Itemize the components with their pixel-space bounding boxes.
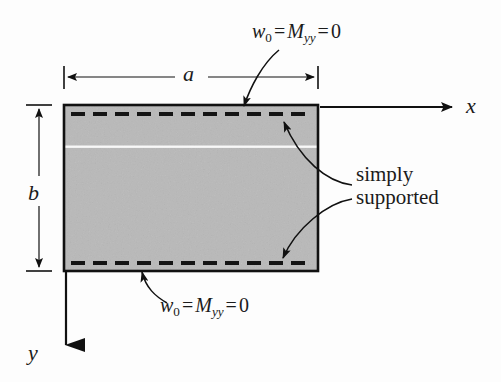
boundary-condition-top-label: w0=Myy=0 (252, 20, 341, 46)
annotation-line-2: supported (356, 186, 439, 209)
plate-rectangle (64, 105, 318, 271)
scan-streak-artifact (65, 146, 317, 148)
bc-bottom-equals-1: = (180, 294, 195, 316)
bc-top-value: 0 (331, 20, 341, 42)
bc-bottom-w-symbol: w (160, 294, 173, 316)
bc-top-w-subscript: 0 (265, 30, 272, 45)
leader-top-boundary-condition (244, 50, 279, 106)
bc-top-w-symbol: w (252, 20, 265, 42)
x-axis-label: x (466, 93, 476, 119)
bc-bottom-w-subscript: 0 (173, 304, 180, 319)
bc-top-moment-symbol: M (287, 20, 304, 42)
bc-top-equals-1: = (272, 20, 287, 42)
bc-top-moment-subscript: yy (304, 30, 316, 45)
boundary-condition-bottom-label: w0=Myy=0 (160, 294, 249, 320)
simply-supported-annotation: simply supported (356, 163, 439, 208)
figure-canvas: w0=Myy=0 w0=Myy=0 simply supported a b x… (0, 0, 501, 382)
y-axis-label: y (28, 340, 38, 366)
annotation-line-1: simply (356, 163, 439, 186)
dimension-b-label: b (28, 180, 39, 206)
leader-line-top (244, 50, 279, 106)
bc-bottom-moment-symbol: M (195, 294, 212, 316)
bc-bottom-moment-subscript: yy (212, 304, 224, 319)
dimension-a-label: a (183, 61, 194, 87)
bc-bottom-value: 0 (239, 294, 249, 316)
bc-bottom-equals-2: = (224, 294, 239, 316)
bc-top-equals-2: = (316, 20, 331, 42)
